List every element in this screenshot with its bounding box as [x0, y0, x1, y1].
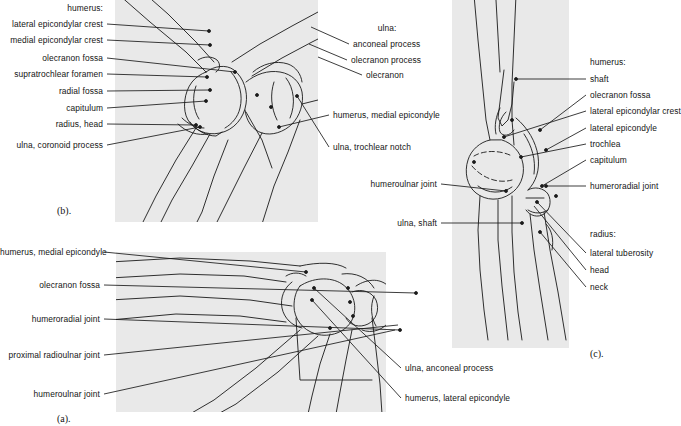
- label-olecranon-fossa-a: olecranon fossa: [0, 281, 100, 290]
- label-trochlea-c: trochlea: [590, 140, 621, 149]
- label-humerus-heading-b: humerus:: [0, 4, 103, 13]
- label-shaft-c: shaft: [590, 75, 609, 84]
- panel-b-background: [115, 0, 318, 222]
- label-head-c: head: [590, 266, 609, 275]
- label-medial-epicondylar-crest-b: medial epicondylar crest: [0, 36, 103, 45]
- label-ulna-anconeal-process-a: ulna, anconeal process: [405, 364, 493, 373]
- label-lateral-tuberosity-c: lateral tuberosity: [590, 249, 653, 258]
- label-lateral-epicondylar-crest-b: lateral epicondylar crest: [0, 20, 103, 29]
- label-radius-heading-c: radius:: [590, 230, 616, 239]
- label-humerus-lateral-epicondyle-a: humerus, lateral epicondyle: [405, 394, 510, 403]
- label-humeroradial-joint-a: humeroradial joint: [0, 315, 100, 324]
- label-humerus-heading-c: humerus:: [590, 58, 626, 67]
- label-capitulum-c: capitulum: [590, 156, 627, 165]
- label-capitulum-b: capitulum: [0, 104, 103, 113]
- panel-caption-c: (c).: [590, 348, 604, 359]
- label-radius-head-b: radius, head: [0, 120, 103, 129]
- label-ulna-trochlear-notch-b: ulna, trochlear notch: [333, 143, 411, 152]
- label-humeroulnar-joint-c: humeroulnar joint: [330, 180, 437, 189]
- panel-a-background: [116, 252, 386, 412]
- label-supratrochlear-foramen-b: supratrochlear foramen: [0, 70, 103, 79]
- label-proximal-radioulnar-joint-a: proximal radioulnar joint: [0, 351, 100, 360]
- label-lateral-epicondyle-c: lateral epicondyle: [590, 124, 657, 133]
- label-humeroulnar-joint-a: humeroulnar joint: [0, 390, 100, 399]
- panel-caption-a: (a).: [57, 413, 71, 424]
- label-lateral-epicondylar-crest-c: lateral epicondylar crest: [590, 107, 681, 116]
- panel-caption-b: (b).: [57, 205, 71, 216]
- label-humerus-medial-epicondyle-a: humerus, medial epicondyle: [0, 248, 100, 257]
- label-olecranon-fossa-c: olecranon fossa: [590, 91, 651, 100]
- label-olecranon-fossa-b: olecranon fossa: [0, 54, 103, 63]
- label-ulna-coronoid-process-b: ulna, coronoid process: [0, 141, 103, 150]
- label-olecranon-b: olecranon: [366, 71, 404, 80]
- panel-c-background: [452, 0, 569, 348]
- label-anconeal-process-b: anconeal process: [353, 40, 420, 49]
- label-radial-fossa-b: radial fossa: [0, 87, 103, 96]
- label-neck-c: neck: [590, 283, 608, 292]
- label-ulna-heading-b: ulna:: [378, 24, 397, 33]
- label-humerus-medial-epicondyle-b: humerus, medial epicondyle: [333, 111, 440, 120]
- label-humeroradial-joint-c: humeroradial joint: [590, 182, 658, 191]
- label-olecranon-process-b: olecranon process: [351, 56, 421, 65]
- label-ulna-shaft-c: ulna, shaft: [330, 219, 437, 228]
